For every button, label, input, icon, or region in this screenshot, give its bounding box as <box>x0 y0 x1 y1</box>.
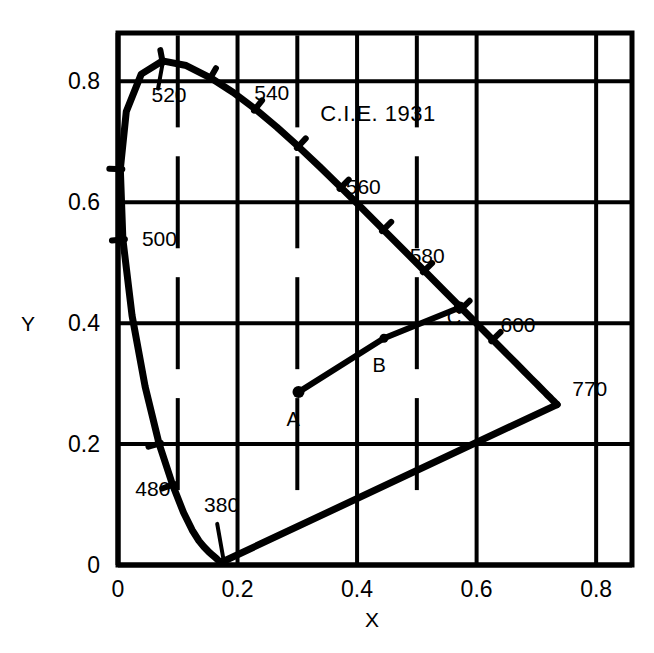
y-tick-label: 0.2 <box>68 431 100 457</box>
point-label-b: B <box>373 354 386 376</box>
x-axis-label: X <box>365 608 379 631</box>
x-tick-label: 0 <box>112 576 125 602</box>
x-tick-label: 0.2 <box>222 576 254 602</box>
x-tick-label: 0.4 <box>341 576 373 602</box>
y-tick-label: 0.4 <box>68 310 100 336</box>
chart-title: C.I.E. 1931 <box>320 101 436 126</box>
point-label-c: C <box>447 306 461 328</box>
x-tick-label: 0.8 <box>580 576 612 602</box>
wavelength-label-540: 540 <box>254 81 289 104</box>
cie-1931-chromaticity-diagram: 00.20.40.60.8 00.20.40.60.8 380480500520… <box>0 0 654 653</box>
wavelength-label-580: 580 <box>410 244 445 267</box>
wavelength-label-560: 560 <box>346 175 381 198</box>
wavelength-label-380: 380 <box>204 493 239 516</box>
point-label-a: A <box>286 408 300 430</box>
x-tick-label: 0.6 <box>461 576 493 602</box>
y-tick-label: 0 <box>87 552 100 578</box>
y-axis-label: Y <box>21 312 35 335</box>
wavelength-label-600: 600 <box>501 313 536 336</box>
wavelength-label-480: 480 <box>135 477 170 500</box>
data-point-b <box>379 334 388 343</box>
y-tick-label: 0.6 <box>68 189 100 215</box>
chart-canvas: 00.20.40.60.8 00.20.40.60.8 380480500520… <box>0 0 654 653</box>
data-point-a <box>292 386 304 398</box>
wavelength-tick-520 <box>160 50 162 63</box>
wavelength-label-770: 770 <box>572 377 607 400</box>
wavelength-tick <box>148 443 161 447</box>
wavelength-label-500: 500 <box>142 227 177 250</box>
y-tick-label: 0.8 <box>68 68 100 94</box>
wavelength-tick-500 <box>112 239 125 240</box>
